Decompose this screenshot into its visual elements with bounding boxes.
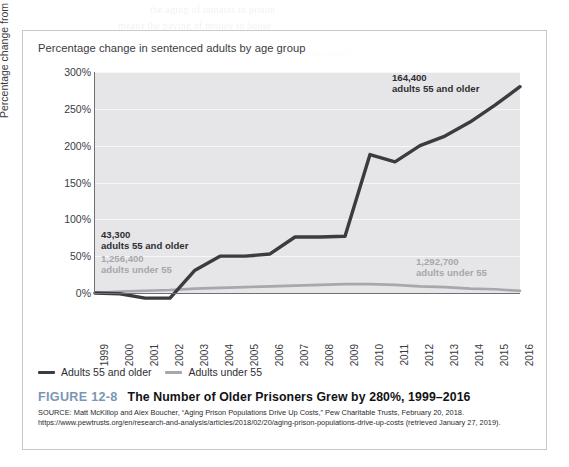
x-axis-line xyxy=(95,293,520,294)
y-tick-label: 300% xyxy=(47,66,91,78)
x-axis-ticks: 1999200020012002200320042005200620072008… xyxy=(95,296,520,356)
annotation-group: adults 55 and older xyxy=(101,240,188,251)
figure-number: FIGURE 12-8 xyxy=(38,390,118,404)
annotation-value: 1,256,400 xyxy=(101,253,172,264)
y-axis-ticks: 300% 250% 200% 150% 100% 50% 0% xyxy=(45,72,91,293)
y-tick-label: 200% xyxy=(47,140,91,152)
legend-swatch-icon xyxy=(38,371,55,374)
annotation-group: adults under 55 xyxy=(416,267,487,278)
series-line-adults-under-55 xyxy=(95,284,520,293)
x-tick-label: 2012 xyxy=(424,344,435,366)
y-tick-label: 0% xyxy=(47,287,91,299)
legend-label: Adults under 55 xyxy=(188,366,262,378)
x-tick-label: 2004 xyxy=(224,344,235,366)
chart-subtitle: Percentage change in sentenced adults by… xyxy=(38,42,305,54)
annotation-right-older: 164,400 adults 55 and older xyxy=(392,72,479,95)
figure-title: The Number of Older Prisoners Grew by 28… xyxy=(128,390,471,404)
annotation-value: 43,300 xyxy=(101,229,188,240)
x-tick-label: 2003 xyxy=(199,344,210,366)
y-axis-line xyxy=(94,72,95,294)
x-tick-label: 1999 xyxy=(99,344,110,366)
chart-legend: Adults 55 and older Adults under 55 xyxy=(38,366,262,378)
figure-container: Percentage change in sentenced adults by… xyxy=(0,0,569,467)
x-tick-label: 2008 xyxy=(324,344,335,366)
x-tick-label: 2000 xyxy=(124,344,135,366)
y-tick-label: 250% xyxy=(47,103,91,115)
x-tick-label: 2006 xyxy=(274,344,285,366)
x-tick-label: 2009 xyxy=(349,344,360,366)
annotation-right-under: 1,292,700 adults under 55 xyxy=(416,256,487,279)
annotation-group: adults 55 and older xyxy=(392,83,479,94)
x-tick-label: 2002 xyxy=(174,344,185,366)
x-tick-label: 2016 xyxy=(524,344,535,366)
x-tick-label: 2013 xyxy=(449,344,460,366)
legend-swatch-icon xyxy=(165,371,182,374)
x-tick-label: 2014 xyxy=(474,344,485,366)
y-tick-label: 150% xyxy=(47,177,91,189)
y-axis-title: Percentage change from 1999 xyxy=(0,0,10,118)
x-tick-label: 2005 xyxy=(249,344,260,366)
annotation-left-older: 43,300 adults 55 and older xyxy=(101,229,188,252)
figure-source: SOURCE: Matt McKillop and Alex Boucher, … xyxy=(38,408,518,428)
y-tick-label: 100% xyxy=(47,213,91,225)
annotation-value: 1,292,700 xyxy=(416,256,487,267)
y-tick-label: 50% xyxy=(47,250,91,262)
legend-item-adults-55-and-older[interactable]: Adults 55 and older xyxy=(38,366,151,378)
x-tick-label: 2015 xyxy=(499,344,510,366)
legend-label: Adults 55 and older xyxy=(61,366,151,378)
annotation-value: 164,400 xyxy=(392,72,479,83)
x-tick-label: 2007 xyxy=(299,344,310,366)
figure-caption: FIGURE 12-8 The Number of Older Prisoner… xyxy=(38,390,471,404)
x-tick-label: 2011 xyxy=(399,344,410,366)
x-tick-label: 2001 xyxy=(149,344,160,366)
annotation-left-under: 1,256,400 adults under 55 xyxy=(101,253,172,276)
annotation-group: adults under 55 xyxy=(101,264,172,275)
x-tick-label: 2010 xyxy=(374,344,385,366)
legend-item-adults-under-55[interactable]: Adults under 55 xyxy=(165,366,262,378)
